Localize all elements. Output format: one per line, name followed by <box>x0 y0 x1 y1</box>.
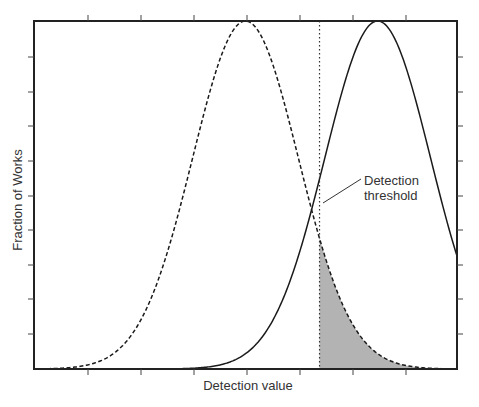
annotation-label-line2: threshold <box>364 188 417 203</box>
x-axis-label: Detection value <box>203 378 293 393</box>
chart: Detection threshold Detection value Frac… <box>0 0 479 407</box>
y-axis-label: Fraction of Works <box>10 149 25 251</box>
annotation-leader <box>323 179 361 203</box>
annotation-label-line1: Detection <box>364 173 419 188</box>
false-positive-shaded-region <box>320 238 457 369</box>
